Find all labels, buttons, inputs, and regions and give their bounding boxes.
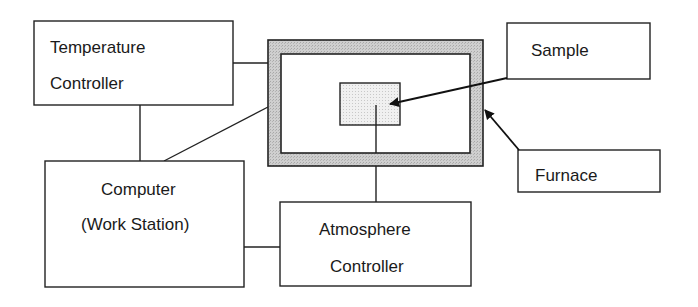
computer-label-line1: Computer — [101, 180, 176, 200]
diagram-canvas: Temperature Controller Sample Furnace Co… — [0, 0, 698, 307]
furnace-arrow — [485, 110, 519, 150]
sample-label: Sample — [531, 41, 589, 61]
atmosphere-controller-label-line2: Controller — [330, 257, 404, 277]
temperature-controller-label-line2: Controller — [50, 74, 124, 94]
edge-computer-to-furnace — [164, 107, 268, 161]
atmosphere-controller-label-line1: Atmosphere — [319, 220, 411, 240]
computer-label-line2: (Work Station) — [81, 215, 189, 235]
furnace-label: Furnace — [535, 166, 597, 186]
temperature-controller-label-line1: Temperature — [50, 38, 145, 58]
